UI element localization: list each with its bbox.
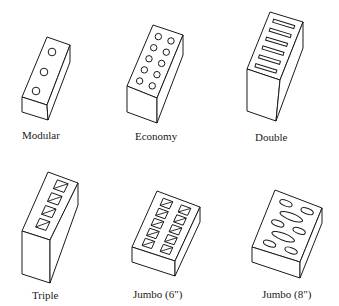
core-hole (163, 49, 169, 55)
brick-modular-label: Modular (22, 129, 60, 141)
brick-jumbo-8: Jumbo (8") (252, 190, 322, 301)
core-hole (136, 78, 142, 84)
brick-triple-front-face (22, 231, 50, 283)
brick-triple: Triple (22, 172, 78, 301)
brick-economy-label: Economy (135, 130, 178, 142)
core-hole (158, 60, 164, 66)
brick-jumbo-8-label: Jumbo (8") (262, 288, 312, 301)
core-hole (149, 83, 155, 89)
brick-double-label: Double (255, 131, 288, 143)
brick-types-figure: Modular Economy Double Triple Jumbo (6") (0, 0, 339, 306)
brick-jumbo-6-label: Jumbo (6") (133, 288, 183, 301)
core-hole (154, 71, 160, 77)
core-hole (48, 48, 56, 56)
core-hole (146, 56, 152, 62)
core-hole (155, 33, 161, 39)
core-hole (40, 68, 48, 76)
core-hole (141, 67, 147, 73)
brick-jumbo-6: Jumbo (6") (132, 191, 200, 301)
brick-double: Double (247, 12, 303, 143)
brick-triple-label: Triple (32, 289, 59, 301)
brick-economy: Economy (127, 25, 183, 142)
core-hole (168, 38, 174, 44)
core-hole (150, 45, 156, 51)
brick-modular: Modular (22, 37, 70, 141)
core-hole (32, 87, 40, 95)
